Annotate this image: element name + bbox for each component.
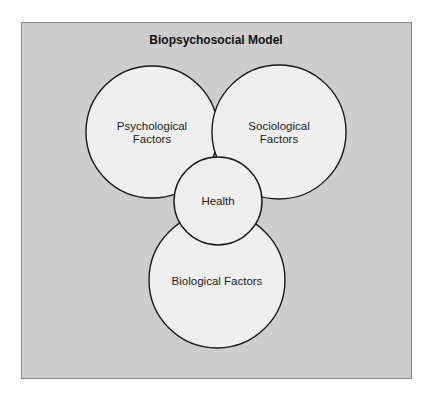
psychological-label: Psychological Factors bbox=[102, 120, 202, 146]
biological-label: Biological Factors bbox=[157, 275, 277, 288]
psychological-label-line2: Factors bbox=[102, 133, 202, 146]
health-label: Health bbox=[168, 195, 268, 208]
sociological-label-line1: Sociological bbox=[229, 120, 329, 133]
diagram-title: Biopsychosocial Model bbox=[0, 33, 432, 47]
psychological-label-line1: Psychological bbox=[102, 120, 202, 133]
sociological-label-line2: Factors bbox=[229, 133, 329, 146]
sociological-label: Sociological Factors bbox=[229, 120, 329, 146]
